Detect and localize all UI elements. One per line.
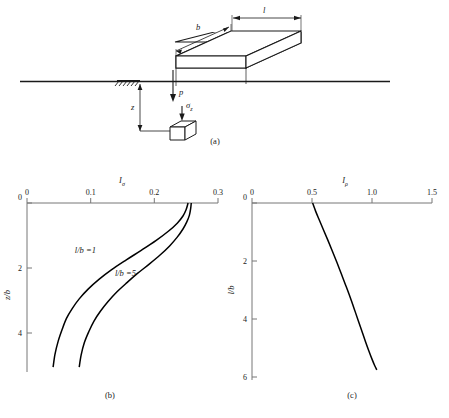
annotation-lb-5: l/b =5 <box>115 268 136 278</box>
panel-c-xtick-2: 1.0 <box>367 188 377 197</box>
panel-b-y-axis-title: z/b <box>2 290 12 301</box>
depth-dimension-z: z <box>130 84 172 131</box>
panel-b-x-axis-title: Iσ <box>118 175 126 187</box>
panel-b-chart: 0 0.1 0.2 0.3 Iσ 0 2 4 z/b l/b =1 l/b =5… <box>2 175 223 400</box>
caption-a: (a) <box>210 136 220 146</box>
panel-b-ytick-0: 0 <box>18 193 22 202</box>
panel-c-xtick-3: 1.5 <box>427 188 437 197</box>
depth-z-label: z <box>130 102 135 112</box>
panel-c-xtick-0: 0 <box>250 188 254 197</box>
panel-c-y-ticks <box>252 203 257 377</box>
panel-a-group: b l p z <box>20 5 390 146</box>
caption-c: (c) <box>347 390 357 400</box>
panel-b-xtick-3: 0.3 <box>213 188 223 197</box>
panel-c-ytick-0: 0 <box>243 193 247 202</box>
caption-b: (b) <box>105 390 115 400</box>
curve-lb-1 <box>53 203 188 367</box>
curve-influence-rho <box>313 203 377 370</box>
panel-c-ytick-3: 6 <box>243 373 247 382</box>
soil-element-cube <box>170 121 196 140</box>
stress-label: σz <box>186 100 193 112</box>
annotation-lb-1: l/b =1 <box>75 245 96 255</box>
figure-svg: b l p z <box>0 0 449 418</box>
panel-b-ytick-1: 2 <box>18 264 22 273</box>
curve-lb-5 <box>79 203 191 367</box>
panel-c-ytick-1: 2 <box>243 257 247 266</box>
pressure-arrow: p <box>170 70 183 102</box>
dim-l-label: l <box>263 5 266 15</box>
panel-b-ytick-2: 4 <box>18 329 22 338</box>
stress-arrow-sigma-z: σz <box>179 100 193 121</box>
soil-pressure-influence-figure: b l p z <box>0 0 449 418</box>
panel-c-ytick-2: 4 <box>243 315 247 324</box>
panel-c-xtick-1: 0.5 <box>307 188 317 197</box>
pressure-label: p <box>178 87 183 97</box>
panel-c-y-axis-title: l/b <box>226 286 236 295</box>
panel-b-y-ticks <box>27 203 32 333</box>
panel-b-xtick-1: 0.1 <box>86 188 96 197</box>
panel-b-x-ticks <box>27 198 218 203</box>
dim-b-label: b <box>196 22 200 32</box>
panel-c-x-axis-title: Iρ <box>341 175 348 187</box>
panel-b-xtick-2: 0.2 <box>149 188 159 197</box>
panel-c-x-ticks <box>252 198 432 203</box>
panel-b-xtick-0: 0 <box>25 188 29 197</box>
panel-c-chart: 0 0.5 1.0 1.5 Iρ 0 2 4 6 l/b (c) <box>226 175 437 400</box>
